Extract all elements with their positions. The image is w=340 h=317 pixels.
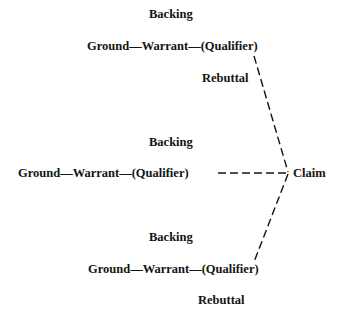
- chain-middle: Ground—Warrant—(Qualifier): [18, 167, 189, 180]
- bottom-connector: [254, 174, 288, 262]
- claim-label: Claim: [293, 167, 326, 180]
- backing-middle: Backing: [149, 136, 193, 149]
- toulmin-diagram: Backing Ground—Warrant—(Qualifier) Rebut…: [0, 0, 340, 317]
- backing-top: Backing: [149, 8, 193, 21]
- backing-bottom: Backing: [149, 231, 193, 244]
- chain-bottom: Ground—Warrant—(Qualifier): [88, 263, 259, 276]
- rebuttal-top: Rebuttal: [202, 72, 249, 85]
- chain-top: Ground—Warrant—(Qualifier): [87, 40, 258, 53]
- rebuttal-bottom: Rebuttal: [198, 294, 245, 307]
- top-connector: [254, 56, 288, 172]
